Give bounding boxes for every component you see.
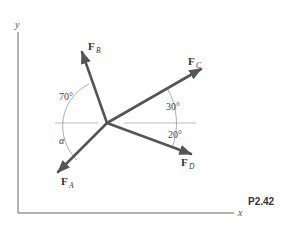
svg-text:F: F (188, 55, 195, 67)
x-axis-label: x (237, 207, 243, 218)
label-fa: F A (61, 175, 74, 190)
label-fd: F D (181, 156, 195, 171)
vector-fb (82, 52, 107, 123)
angle-label-alpha: α (59, 135, 65, 146)
svg-text:D: D (188, 162, 195, 171)
angle-label-70: 70° (59, 91, 73, 102)
vector-fc (107, 69, 201, 123)
svg-text:F: F (181, 156, 188, 168)
label-fb: F B (88, 40, 101, 55)
force-diagram: y x F A F B F C F D 70° α 30° 20° P2.42 (0, 0, 288, 225)
svg-text:B: B (96, 46, 101, 55)
svg-text:A: A (68, 181, 74, 190)
label-fc: F C (188, 55, 202, 70)
angle-label-30: 30° (166, 101, 180, 112)
y-axis-label: y (14, 19, 20, 30)
svg-text:F: F (88, 40, 95, 52)
problem-label: P2.42 (248, 196, 275, 207)
svg-text:F: F (61, 175, 68, 187)
force-vectors (58, 52, 201, 172)
vector-fa (58, 123, 107, 172)
angle-label-20: 20° (168, 129, 182, 140)
